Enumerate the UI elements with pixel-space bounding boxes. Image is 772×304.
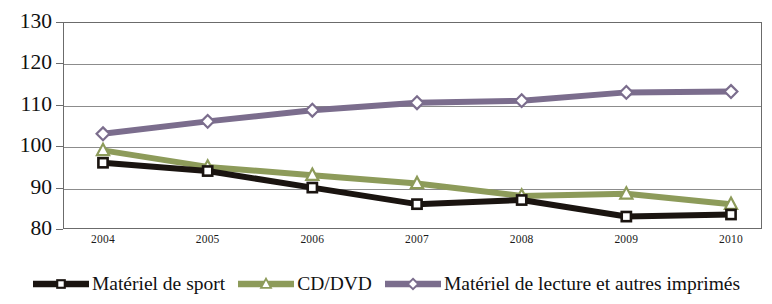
y-axis-tick-mark <box>56 63 63 64</box>
x-axis-tick-label: 2010 <box>719 233 743 245</box>
gridline <box>64 64 761 65</box>
line-chart: 8090100110120130 20042005200620072008200… <box>0 0 772 304</box>
x-axis-tick-label: 2009 <box>614 233 638 245</box>
legend-triangle-icon <box>237 276 295 292</box>
legend-item-2[interactable]: CD/DVD <box>237 274 372 294</box>
x-axis-labels: 2004200520062007200820092010 <box>0 233 772 253</box>
plot-area <box>63 22 762 229</box>
gridline <box>64 189 761 190</box>
legend-item-3[interactable]: Matériel de lecture et autres imprimés <box>384 274 740 294</box>
y-axis-tick-label: 100 <box>0 135 52 157</box>
x-axis-tick-label: 2006 <box>300 233 324 245</box>
y-axis-tick-mark <box>56 22 63 23</box>
legend-label: Matériel de lecture et autres imprimés <box>444 274 740 294</box>
gridline <box>64 147 761 148</box>
legend-square-icon <box>32 276 90 292</box>
y-axis-tick-label: 130 <box>0 11 52 33</box>
legend-label: CD/DVD <box>297 274 372 294</box>
x-axis-tick-label: 2005 <box>196 233 220 245</box>
chart-legend: Matériel de sportCD/DVDMatériel de lectu… <box>0 268 772 300</box>
gridline <box>64 106 761 107</box>
y-axis-tick-label: 120 <box>0 52 52 74</box>
legend-diamond-icon <box>384 276 442 292</box>
x-axis-tick-label: 2008 <box>510 233 534 245</box>
y-axis-tick-mark <box>56 146 63 147</box>
legend-item-1[interactable]: Matériel de sport <box>32 274 225 294</box>
y-axis-tick-mark <box>56 105 63 106</box>
y-axis-tick-mark <box>56 188 63 189</box>
y-axis-tick-label: 90 <box>0 177 52 199</box>
y-axis-labels: 8090100110120130 <box>0 0 58 304</box>
y-axis-tick-label: 110 <box>0 94 52 116</box>
x-axis-tick-label: 2007 <box>405 233 429 245</box>
y-axis-tick-mark <box>56 229 63 230</box>
legend-label: Matériel de sport <box>92 274 225 294</box>
x-axis-tick-label: 2004 <box>91 233 115 245</box>
